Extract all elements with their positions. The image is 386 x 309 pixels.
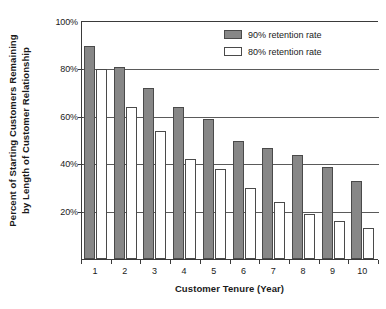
bar-5-series1[interactable] <box>203 119 214 259</box>
x-tick-label-6: 6 <box>230 266 258 276</box>
legend-label-80: 80% retention rate <box>248 47 322 57</box>
x-tickmark-3 <box>140 260 141 264</box>
x-tickmark-end <box>378 260 379 264</box>
x-tick-label-4: 4 <box>170 266 198 276</box>
bar-group-2 <box>112 22 142 259</box>
bar-9-series2[interactable] <box>334 221 345 259</box>
x-tick-label-2: 2 <box>111 266 139 276</box>
legend-swatch-80-icon <box>224 47 242 56</box>
bar-7-series1[interactable] <box>262 148 273 259</box>
y-axis-tick-labels: 20%40%60%80%100% <box>41 0 78 309</box>
x-tick-label-8: 8 <box>289 266 317 276</box>
x-tick-label-1: 1 <box>81 266 109 276</box>
bar-3-series1[interactable] <box>143 88 154 259</box>
x-tick-label-10: 10 <box>348 266 376 276</box>
x-axis-title: Customer Tenure (Year) <box>81 283 378 294</box>
bar-5-series2[interactable] <box>215 169 226 259</box>
bar-6-series1[interactable] <box>233 141 244 260</box>
bar-4-series2[interactable] <box>185 159 196 259</box>
x-tick-label-7: 7 <box>259 266 287 276</box>
x-tickmark-4 <box>170 260 171 264</box>
bar-8-series1[interactable] <box>292 155 303 259</box>
bar-2-series1[interactable] <box>114 67 125 259</box>
chart-legend: 90% retention rate 80% retention rate <box>224 27 364 61</box>
bar-9-series1[interactable] <box>322 167 333 259</box>
y-tick-label-20: 20% <box>42 208 78 217</box>
legend-item-80: 80% retention rate <box>224 44 364 59</box>
x-tick-label-9: 9 <box>319 266 347 276</box>
bar-10-series2[interactable] <box>363 228 374 259</box>
x-tickmark-2 <box>111 260 112 264</box>
y-tick-label-80: 80% <box>42 65 78 74</box>
bar-group-1 <box>82 22 112 259</box>
y-tick-label-60: 60% <box>42 113 78 122</box>
x-tickmark-5 <box>200 260 201 264</box>
bar-group-4 <box>171 22 201 259</box>
bar-3-series2[interactable] <box>155 131 166 259</box>
bar-2-series2[interactable] <box>126 107 137 259</box>
bar-6-series2[interactable] <box>245 188 256 259</box>
x-tick-label-3: 3 <box>140 266 168 276</box>
x-tickmark-8 <box>289 260 290 264</box>
y-axis-title: Percent of Starting Customers Remaining … <box>0 0 38 260</box>
bar-1-series1[interactable] <box>84 46 95 259</box>
x-tickmark-9 <box>319 260 320 264</box>
bar-4-series1[interactable] <box>173 107 184 259</box>
y-axis-title-line-2: by Length of Customer Relationship <box>19 34 32 226</box>
bar-7-series2[interactable] <box>274 202 285 259</box>
y-tick-label-40: 40% <box>42 160 78 169</box>
x-tickmark-6 <box>230 260 231 264</box>
bar-1-series2[interactable] <box>96 69 107 259</box>
bar-8-series2[interactable] <box>304 214 315 259</box>
y-tick-label-100: 100% <box>42 18 78 27</box>
legend-swatch-90-icon <box>224 30 242 39</box>
x-tick-label-5: 5 <box>200 266 228 276</box>
chart-figure: Percent of Starting Customers Remaining … <box>0 0 386 309</box>
x-tickmark-7 <box>259 260 260 264</box>
legend-label-90: 90% retention rate <box>248 30 322 40</box>
x-tickmark-10 <box>348 260 349 264</box>
bar-10-series1[interactable] <box>351 181 362 259</box>
legend-item-90: 90% retention rate <box>224 27 364 42</box>
y-axis-title-line-1: Percent of Starting Customers Remaining <box>7 34 20 226</box>
x-axis: 12345678910 <box>81 260 378 280</box>
bar-group-3 <box>141 22 171 259</box>
x-tickmark-1 <box>81 260 82 264</box>
